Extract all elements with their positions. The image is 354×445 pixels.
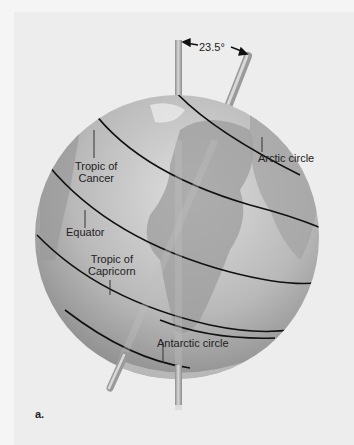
globe-diagram — [0, 0, 354, 445]
tropic-of-cancer-label: Tropic of Cancer — [75, 160, 117, 184]
figure-page: 23.5° Arctic circle Tropic of Cancer Equ… — [0, 0, 354, 445]
arctic-circle-label: Arctic circle — [258, 152, 314, 164]
antarctic-circle-label: Antarctic circle — [157, 337, 229, 349]
vertical-axis-rod-bottom — [175, 365, 182, 405]
tropic-of-capricorn-label: Tropic of Capricorn — [88, 253, 136, 277]
equator-label: Equator — [66, 226, 105, 238]
tilt-angle-label: 23.5° — [199, 41, 225, 53]
panel-letter: a. — [35, 408, 44, 420]
